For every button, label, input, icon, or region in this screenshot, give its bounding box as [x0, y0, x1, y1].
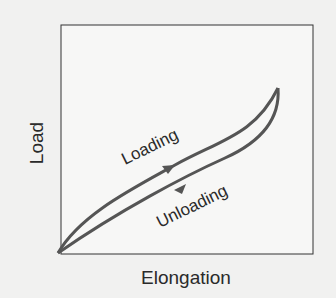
x-axis-label: Elongation — [141, 267, 231, 288]
y-axis-label: Load — [26, 122, 47, 164]
plot-frame — [61, 25, 313, 254]
hysteresis-diagram: Loading Unloading Elongation Load — [0, 0, 336, 298]
